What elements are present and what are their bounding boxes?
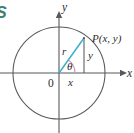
angle-label-theta: θ xyxy=(67,60,73,72)
x-axis-arrow-icon xyxy=(120,70,127,76)
trigonometry-unit-circle-figure: S y x 0 P(x, y) r θ y x xyxy=(0,0,134,133)
diagram-canvas: y x 0 P(x, y) r θ y x xyxy=(0,0,134,133)
x-axis-label: x xyxy=(126,67,133,79)
y-axis-label: y xyxy=(61,1,68,14)
radius-label-r: r xyxy=(62,45,67,57)
origin-label: 0 xyxy=(48,77,54,89)
leg-vertical-label-y: y xyxy=(87,49,93,61)
leg-horizontal-label-x: x xyxy=(67,76,73,88)
point-marker-P xyxy=(83,37,85,39)
point-label-P: P(x, y) xyxy=(91,32,122,45)
